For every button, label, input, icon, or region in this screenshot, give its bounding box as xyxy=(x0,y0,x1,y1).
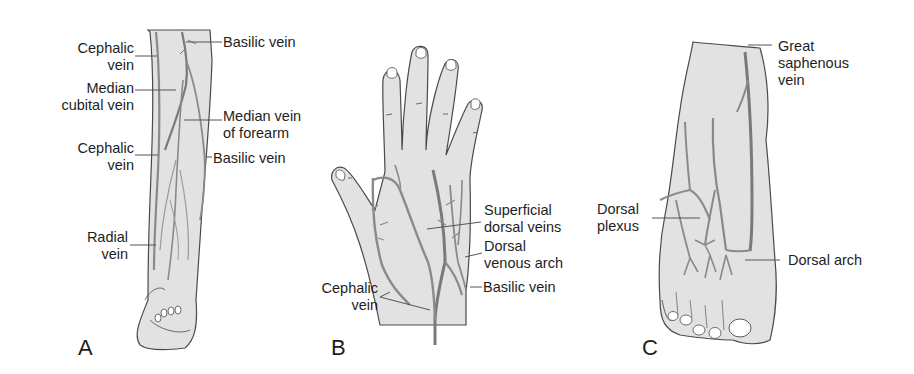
panel-letter-a: A xyxy=(78,335,93,361)
label-superficial-dorsal-veins: Superficial dorsal veins xyxy=(484,202,561,236)
label-dorsal-plexus: Dorsal plexus xyxy=(597,201,639,235)
label-dorsal-arch: Dorsal arch xyxy=(788,252,862,269)
label-great-saphenous-vein: Great saphenous vein xyxy=(778,38,849,89)
superficial-veins-figure: Basilic vein Cephalic vein Median cubita… xyxy=(0,0,914,374)
label-cephalic-vein-lower: Cephalic vein xyxy=(70,140,134,174)
forearm-drawing xyxy=(137,30,212,350)
label-radial-vein: Radial vein xyxy=(66,229,128,263)
label-median-vein-of-forearm: Median vein of forearm xyxy=(223,108,301,142)
label-median-cubital-vein: Median cubital vein xyxy=(44,80,134,114)
label-cephalic-vein-hand: Cephalic vein xyxy=(300,280,378,314)
panel-letter-b: B xyxy=(331,335,346,361)
label-basilic-vein-lower: Basilic vein xyxy=(213,150,286,167)
anatomy-illustration xyxy=(0,0,914,374)
label-cephalic-vein-upper: Cephalic vein xyxy=(70,40,134,74)
foot-drawing xyxy=(659,42,776,344)
label-basilic-vein-hand: Basilic vein xyxy=(483,279,556,296)
label-dorsal-venous-arch: Dorsal venous arch xyxy=(484,238,563,272)
panel-letter-c: C xyxy=(642,335,658,361)
label-basilic-vein-upper: Basilic vein xyxy=(223,34,296,51)
